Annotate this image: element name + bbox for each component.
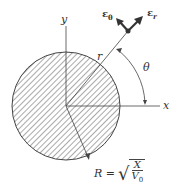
radius-equation: R = √ X V0 [94, 163, 145, 184]
theta-arrowhead-bottom [143, 100, 147, 105]
diagram-canvas [0, 0, 182, 194]
equation-lhs: R = [94, 168, 115, 179]
unit-theta-label: εθ [102, 9, 113, 21]
unit-r-label: εr [147, 8, 157, 20]
denominator: V0 [131, 171, 143, 184]
theta-label: θ [143, 62, 150, 73]
y-axis-label: y [61, 14, 67, 25]
fraction: X V0 [129, 159, 145, 184]
theta-arc [118, 50, 145, 103]
r-label: r [97, 51, 102, 62]
sqrt-icon: √ [118, 165, 129, 183]
unit-theta-arrow [120, 22, 128, 31]
x-axis-label: x [163, 100, 169, 111]
